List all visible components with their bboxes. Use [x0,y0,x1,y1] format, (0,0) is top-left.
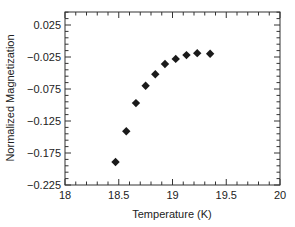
data-point-diamond [122,127,130,135]
x-axis-title: Temperature (K) [132,208,211,220]
major-ticks [65,12,280,185]
x-tick-label: 18.5 [108,189,129,201]
y-axis-title: Normalized Magnetization [4,34,16,161]
data-point-diamond [111,158,119,166]
y-tick-label: −0.175 [27,147,61,159]
y-tick-label: −0.075 [27,83,61,95]
y-tick-label: −0.125 [27,115,61,127]
y-tick-label: 0.025 [33,19,61,31]
x-tick-label: 19.5 [216,189,237,201]
data-point-diamond [193,49,201,57]
data-point-diamond [172,55,180,63]
x-tick-labels: 1818.51919.520 [59,189,286,201]
plot-frame [65,12,280,185]
y-tick-labels: −0.225−0.175−0.125−0.075−0.0250.025 [27,19,61,191]
data-point-diamond [151,70,159,78]
data-point-diamond [161,60,169,68]
data-points [111,49,214,166]
data-point-diamond [182,51,190,59]
data-point-diamond [206,50,214,58]
x-tick-label: 19 [166,189,178,201]
scatter-chart: 1818.51919.520 −0.225−0.175−0.125−0.075−… [0,0,295,227]
data-point-diamond [141,82,149,90]
y-tick-label: −0.025 [27,51,61,63]
x-tick-label: 20 [274,189,286,201]
minor-ticks [65,12,280,185]
data-point-diamond [132,99,140,107]
y-tick-label: −0.225 [27,179,61,191]
